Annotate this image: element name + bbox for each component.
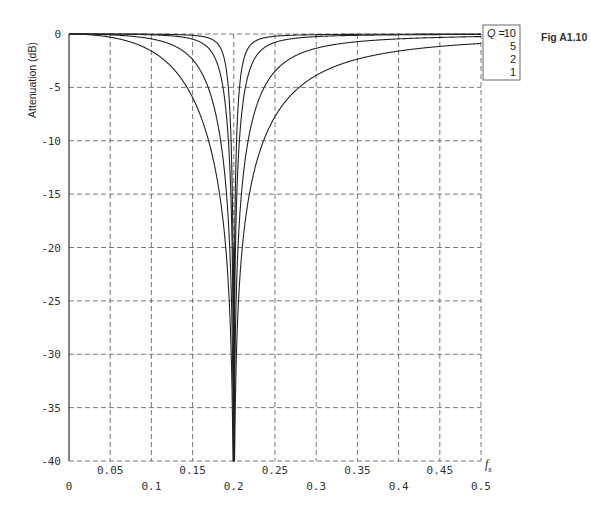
notch-filter-chart: 0-5-10-15-20-25-30-35-40 0.050.150.250.3…	[0, 0, 591, 521]
x-tick-label-lower: 0.5	[471, 480, 491, 493]
y-tick-label: 0	[54, 28, 61, 41]
y-tick-label: -15	[41, 188, 61, 201]
y-tick-label: -10	[41, 135, 61, 148]
y-axis-ticks: 0-5-10-15-20-25-30-35-40	[41, 28, 61, 468]
x-tick-label-lower: 0.2	[224, 480, 244, 493]
x-tick-label-lower: 0.4	[389, 480, 409, 493]
x-axis-ticks: 0.050.150.250.350.4500.10.20.30.40.5	[66, 464, 491, 493]
grid-lines	[69, 34, 481, 461]
x-tick-label-lower: 0.3	[306, 480, 326, 493]
x-tick-label-lower: 0.1	[141, 480, 161, 493]
x-tick-label-upper: 0.45	[427, 464, 454, 477]
y-axis-label: Attenuation (dB)	[26, 42, 38, 118]
legend-q-label: Q =	[487, 27, 505, 39]
x-tick-label-upper: 0.35	[344, 464, 371, 477]
figure-label: Fig A1.10	[541, 31, 587, 43]
y-tick-label: -40	[41, 455, 61, 468]
legend-entry-q1: 1	[510, 66, 516, 78]
x-tick-label-lower: 0	[66, 480, 73, 493]
legend: Q = 10 5 2 1	[483, 25, 520, 80]
legend-entry-q10: 10	[504, 27, 516, 39]
x-tick-label-upper: 0.05	[97, 464, 124, 477]
y-tick-label: -35	[41, 402, 61, 415]
legend-entry-q5: 5	[510, 40, 516, 52]
x-tick-label-upper: 0.25	[262, 464, 289, 477]
y-tick-label: -5	[48, 81, 61, 94]
y-tick-label: -20	[41, 242, 61, 255]
legend-entry-q2: 2	[510, 53, 516, 65]
x-axis-label: fs	[485, 457, 492, 474]
y-tick-label: -30	[41, 348, 61, 361]
y-tick-label: -25	[41, 295, 61, 308]
x-tick-label-upper: 0.15	[179, 464, 206, 477]
